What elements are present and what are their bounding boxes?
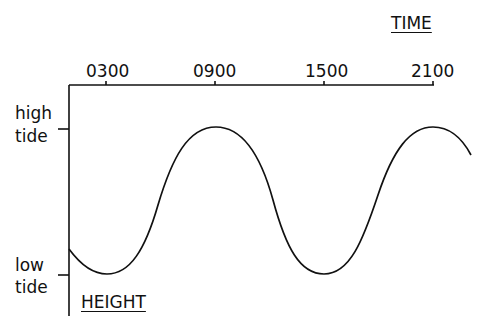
tide-chart [0,0,481,331]
low-tide-label-line2: tide [15,277,48,297]
tick-label-2100: 2100 [411,61,454,81]
high-tide-label-line2: tide [15,126,48,146]
tick-label-0300: 0300 [86,61,129,81]
tick-label-0900: 0900 [193,61,236,81]
height-axis-label: HEIGHT [81,292,146,312]
low-tide-label-line1: low [15,255,44,275]
tick-label-1500: 1500 [305,61,348,81]
time-axis-label: TIME [391,13,432,33]
high-tide-label-line1: high [15,103,52,123]
tide-curve [69,127,471,274]
